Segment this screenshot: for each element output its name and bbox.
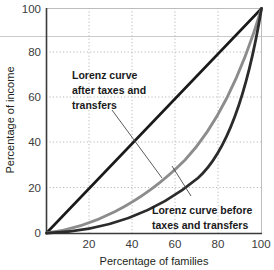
- y-tick-40: 40: [28, 136, 41, 148]
- lorenz-curve-chart: Lorenz curve after taxes and transfers L…: [0, 0, 274, 270]
- x-tick-80: 80: [212, 238, 225, 250]
- x-tick-40: 40: [126, 238, 139, 250]
- y-tick-80: 80: [28, 46, 41, 58]
- y-tick-0: 0: [35, 227, 41, 239]
- annotation-before-line2: taxes and transfers: [152, 219, 248, 231]
- y-tick-60: 60: [28, 91, 41, 103]
- x-tick-100: 100: [251, 238, 270, 250]
- annotation-after-line2: after taxes and: [72, 84, 146, 96]
- x-tick-60: 60: [169, 238, 182, 250]
- annotation-after-line3: transfers: [72, 99, 117, 111]
- x-axis-title: Percentage of families: [100, 255, 209, 267]
- chart-canvas: Lorenz curve after taxes and transfers L…: [0, 0, 274, 270]
- y-axis-title: Percentage of income: [4, 66, 16, 173]
- y-tick-20: 20: [28, 182, 41, 194]
- x-tick-20: 20: [83, 238, 96, 250]
- annotation-after-line1: Lorenz curve: [72, 69, 138, 81]
- y-tick-100: 100: [22, 3, 41, 15]
- annotation-before-line1: Lorenz curve before: [152, 204, 253, 216]
